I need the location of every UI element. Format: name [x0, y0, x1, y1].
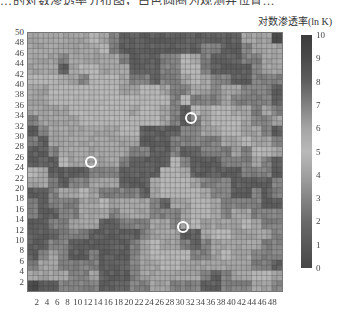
y-tick-label: 46: [4, 49, 24, 58]
colorbar-tick-label: 7: [316, 101, 321, 110]
y-tick-label: 18: [4, 194, 24, 203]
colorbar-tick-label: 3: [316, 194, 321, 203]
colorbar-tick-label: 5: [316, 148, 321, 157]
colorbar-tick-label: 2: [316, 217, 321, 226]
caption-fragment: …的对数渗透率分布图，白色圆圈为观测井位置…: [0, 0, 349, 5]
colorbar-tick-label: 10: [316, 31, 325, 40]
heatmap-canvas: [28, 33, 282, 291]
colorbar-tick-label: 8: [316, 78, 321, 87]
y-tick-label: 36: [4, 101, 24, 110]
y-tick-label: 44: [4, 59, 24, 68]
y-tick-label: 28: [4, 142, 24, 151]
y-tick-label: 14: [4, 215, 24, 224]
well-marker-icon: [185, 112, 197, 124]
y-tick-label: 32: [4, 122, 24, 131]
well-marker-icon: [177, 221, 189, 233]
y-tick-label: 22: [4, 174, 24, 183]
y-tick-label: 24: [4, 163, 24, 172]
y-tick-label: 4: [4, 267, 24, 276]
y-tick-label: 50: [4, 28, 24, 37]
y-tick-label: 34: [4, 111, 24, 120]
y-tick-label: 8: [4, 246, 24, 255]
heatmap-plot: [27, 32, 283, 292]
colorbar-tick-label: 0: [316, 264, 321, 273]
colorbar-tick-label: 9: [316, 54, 321, 63]
y-tick-label: 10: [4, 236, 24, 245]
y-tick-label: 12: [4, 226, 24, 235]
y-tick-label: 2: [4, 278, 24, 287]
colorbar-title: 对数渗透率(ln K): [258, 13, 332, 28]
colorbar-tick-label: 1: [316, 241, 321, 250]
y-tick-label: 40: [4, 80, 24, 89]
y-tick-label: 6: [4, 257, 24, 266]
y-tick-label: 30: [4, 132, 24, 141]
colorbar-tick-label: 4: [316, 171, 321, 180]
y-tick-label: 16: [4, 205, 24, 214]
colorbar: [301, 35, 312, 268]
y-tick-label: 20: [4, 184, 24, 193]
y-tick-label: 26: [4, 153, 24, 162]
y-tick-label: 48: [4, 38, 24, 47]
x-tick-label: 48: [266, 297, 278, 307]
well-marker-icon: [85, 156, 97, 168]
y-tick-label: 42: [4, 70, 24, 79]
colorbar-tick-label: 6: [316, 124, 321, 133]
y-tick-label: 38: [4, 90, 24, 99]
